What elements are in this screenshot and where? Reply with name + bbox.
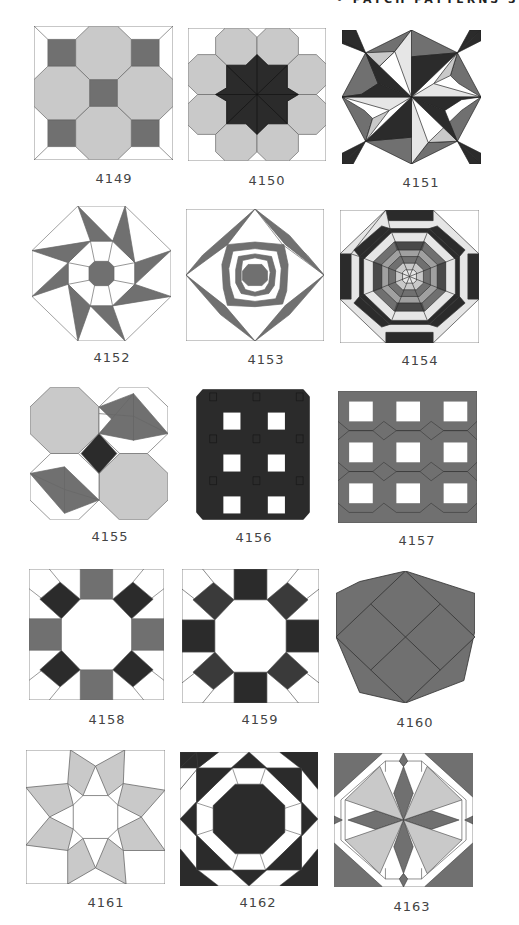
dark-octagon-grid-icon: [196, 389, 310, 520]
pattern-label: 4157: [377, 533, 457, 548]
pattern-4159: [182, 569, 319, 703]
pattern-4154: [340, 210, 479, 343]
pattern-4161: [26, 750, 165, 884]
eight-point-star-icon: [26, 750, 165, 884]
pattern-4163: [334, 753, 473, 887]
pattern-label: 4155: [70, 529, 150, 544]
pattern-label: 4152: [72, 350, 152, 365]
pattern-4160: [336, 571, 475, 703]
kaleidoscope-star-icon: [334, 753, 473, 887]
pattern-4152: [32, 206, 171, 341]
pattern-label: 4159: [220, 712, 300, 727]
pattern-label: 4161: [66, 895, 146, 910]
gray-lattice-icon: [338, 391, 477, 523]
eight-octagon-star-icon: [188, 28, 326, 161]
pattern-4151: [342, 30, 481, 164]
pattern-4149: [34, 26, 173, 160]
pattern-label: 4156: [214, 530, 294, 545]
dark-octagon-ring-icon: [182, 569, 319, 703]
octagon-web-icon: [340, 210, 479, 343]
pattern-label: 4151: [381, 175, 461, 190]
octagon-square-pattern-icon: [34, 26, 173, 160]
pattern-4157: [338, 391, 477, 523]
octagon-star-pinwheel-icon: [32, 206, 171, 341]
pattern-label: 4162: [218, 895, 298, 910]
pattern-4162: [180, 752, 318, 886]
page-header: • PATCH PATTERNS 3: [336, 0, 519, 6]
pattern-label: 4160: [375, 715, 455, 730]
pattern-4158: [29, 569, 164, 700]
pattern-label: 4150: [227, 173, 307, 188]
pinwheel-octagon-icon: [342, 30, 481, 164]
framed-dark-octagon-icon: [180, 752, 318, 886]
pattern-4156: [196, 389, 310, 520]
pattern-4150: [188, 28, 326, 161]
pattern-label: 4163: [372, 899, 452, 914]
octagon-cube-pattern-icon: [30, 387, 168, 520]
gray-octagon-diamond-icon: [336, 571, 475, 703]
pattern-label: 4158: [67, 712, 147, 727]
pattern-label: 4154: [380, 353, 460, 368]
pattern-label: 4153: [226, 352, 306, 367]
octagon-ring-squares-icon: [29, 569, 164, 700]
pattern-label: 4149: [74, 171, 154, 186]
pattern-4155: [30, 387, 168, 520]
nested-octagon-diamond-icon: [186, 209, 324, 341]
pattern-4153: [186, 209, 324, 341]
